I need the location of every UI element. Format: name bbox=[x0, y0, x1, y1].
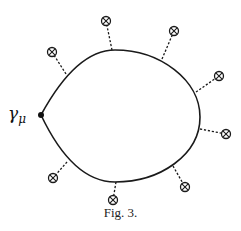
circled-cross-icon bbox=[222, 130, 231, 139]
dashed-propagator bbox=[162, 35, 172, 59]
dashed-propagator bbox=[200, 129, 222, 133]
circled-cross-icon bbox=[170, 27, 179, 36]
external-field-insertions bbox=[48, 17, 231, 205]
circled-cross-icon bbox=[109, 196, 118, 205]
dashed-propagator bbox=[107, 25, 112, 50]
circled-cross-icon bbox=[49, 174, 58, 183]
dashed-propagator bbox=[196, 79, 215, 92]
vertex-label-gamma-mu: γμ bbox=[8, 103, 26, 126]
circled-cross-icon bbox=[48, 48, 57, 57]
circled-cross-icon bbox=[215, 72, 224, 81]
circled-cross-icon bbox=[181, 183, 190, 192]
fermion-loop bbox=[41, 50, 200, 182]
vertex-dot bbox=[38, 112, 44, 118]
circled-cross-icon bbox=[102, 17, 111, 26]
dashed-propagator bbox=[54, 56, 66, 74]
figure-caption: Fig. 3. bbox=[0, 205, 241, 221]
feynman-diagram bbox=[0, 0, 241, 231]
dashed-propagator bbox=[114, 182, 116, 196]
dashed-propagator bbox=[173, 166, 183, 183]
dashed-propagator bbox=[56, 162, 67, 175]
